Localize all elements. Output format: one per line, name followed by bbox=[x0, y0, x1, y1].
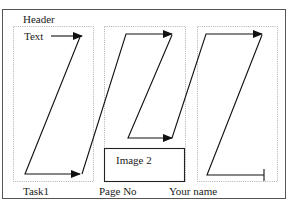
flow-col3-bottom bbox=[207, 35, 264, 175]
header-label: Header bbox=[23, 14, 55, 25]
image-2-label: Image 2 bbox=[116, 155, 152, 166]
footer-page-number-label: Page No bbox=[99, 186, 137, 197]
flow-col2-bottom bbox=[128, 35, 172, 138]
text-label: Text bbox=[24, 31, 43, 42]
column-3-guide bbox=[198, 27, 278, 182]
flow-col1 bbox=[25, 37, 80, 174]
footer-name-label: Your name bbox=[169, 186, 217, 197]
text-flow-diagram bbox=[0, 0, 290, 206]
footer-task-label: Task1 bbox=[23, 186, 49, 197]
